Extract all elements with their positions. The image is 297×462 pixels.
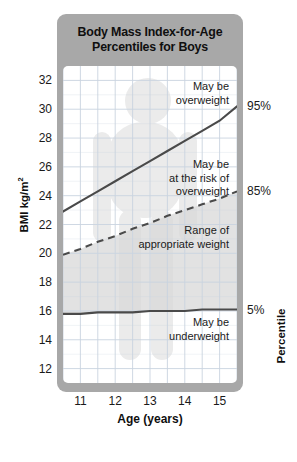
zone-under-line-2: underweight xyxy=(169,330,229,344)
x-axis-tick-13: 13 xyxy=(138,394,162,408)
zone-risk-line-3: overweight xyxy=(169,185,229,199)
y-axis-tick-28: 28 xyxy=(18,131,52,145)
y-axis-tick-14: 14 xyxy=(18,333,52,347)
chart-title: Body Mass Index-for-Age Percentiles for … xyxy=(57,14,243,66)
zone-overweight-line-1: May be xyxy=(176,80,229,94)
y-axis-tick-18: 18 xyxy=(18,275,52,289)
chart-title-line-2: Percentiles for Boys xyxy=(92,40,208,56)
zone-label-underweight: May be underweight xyxy=(169,316,229,343)
y-axis-title: BMI kg/m2 xyxy=(16,165,30,245)
zone-range-line-1: Range of xyxy=(138,224,229,238)
percentile-axis-title: Percentile xyxy=(275,291,287,381)
zone-label-risk-of-overweight: May be at the risk of overweight xyxy=(169,158,229,199)
y-axis-title-exponent: 2 xyxy=(16,177,25,181)
y-axis-title-text: BMI kg/m xyxy=(18,181,30,232)
zone-label-appropriate-weight: Range of appropriate weight xyxy=(138,224,229,251)
plot-area: May be overweight May be at the risk of … xyxy=(63,66,237,383)
percentile-label-85: 85% xyxy=(247,184,271,198)
y-axis-tick-30: 30 xyxy=(18,102,52,116)
zone-overweight-line-2: overweight xyxy=(176,94,229,108)
x-axis-tick-14: 14 xyxy=(173,394,197,408)
zone-range-line-2: appropriate weight xyxy=(138,238,229,252)
percentile-label-95: 95% xyxy=(247,99,271,113)
zone-risk-line-2: at the risk of xyxy=(169,172,229,186)
x-axis-tick-11: 11 xyxy=(68,394,92,408)
percentile-label-5: 5% xyxy=(247,303,264,317)
zone-under-line-1: May be xyxy=(169,316,229,330)
x-axis-tick-12: 12 xyxy=(103,394,127,408)
x-axis-title: Age (years) xyxy=(57,412,243,426)
chart-title-line-1: Body Mass Index-for-Age xyxy=(78,25,223,41)
zone-risk-line-1: May be xyxy=(169,158,229,172)
x-axis-tick-15: 15 xyxy=(208,394,232,408)
x-axis-tick-labels: 1112131415 xyxy=(57,394,243,410)
y-axis-tick-16: 16 xyxy=(18,304,52,318)
y-axis-tick-12: 12 xyxy=(18,362,52,376)
y-axis-tick-32: 32 xyxy=(18,73,52,87)
zone-label-overweight: May be overweight xyxy=(176,80,229,107)
y-axis-tick-20: 20 xyxy=(18,246,52,260)
bmi-chart-card: Body Mass Index-for-Age Percentiles for … xyxy=(57,14,243,392)
